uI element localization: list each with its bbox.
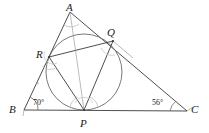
vertex-label-C: C <box>191 104 198 115</box>
vertex-label-A: A <box>66 2 73 13</box>
angle-arc-P-right-icon <box>90 97 98 108</box>
geometry-canvas <box>0 0 209 133</box>
angle-label-B: 70° <box>33 99 44 107</box>
point-R-marker <box>48 56 50 58</box>
tick-past-Q-icon <box>113 41 133 58</box>
side-BC-line <box>24 110 187 111</box>
chord-PR-line <box>49 57 84 110</box>
vertex-label-B: B <box>9 104 16 115</box>
point-P-marker <box>83 109 85 111</box>
geometry-figure: A B C P Q R 70° 56° <box>0 0 209 133</box>
vertex-label-R: R <box>36 49 43 60</box>
vertex-label-Q: Q <box>107 27 115 38</box>
tick-below-B-icon <box>23 110 24 116</box>
side-CA-line <box>70 12 187 111</box>
angle-arc-Q-icon <box>101 48 115 55</box>
triangle-abc <box>24 12 187 111</box>
incircle-shape <box>46 34 122 110</box>
tangency-points <box>48 40 114 111</box>
point-Q-marker <box>112 40 114 42</box>
vertex-label-P: P <box>80 118 87 129</box>
angle-label-C: 56° <box>152 99 163 107</box>
angle-arc-C-icon <box>170 101 176 111</box>
chord-QP-line <box>84 41 113 110</box>
